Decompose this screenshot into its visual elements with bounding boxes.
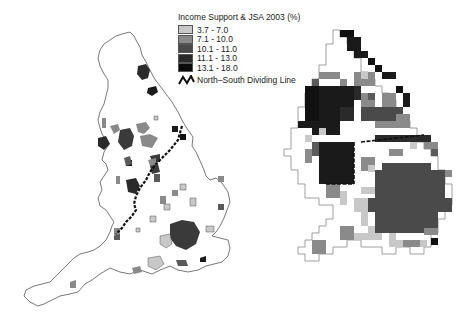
legend-row: 13.1 - 18.0 (178, 63, 300, 73)
zigzag-line-icon (178, 75, 195, 85)
cartogram-cells (298, 30, 452, 254)
legend-swatch (178, 35, 193, 44)
legend-label: 11.1 - 13.0 (197, 53, 237, 63)
legend-label: 10.1 - 11.0 (197, 44, 237, 54)
legend-swatch (178, 25, 193, 34)
legend-row: 3.7 - 7.0 (178, 25, 300, 35)
legend-label: 3.7 - 7.0 (197, 25, 228, 35)
right-cartogram (284, 30, 452, 261)
legend-swatch (178, 63, 193, 72)
legend-row: 10.1 - 11.0 (178, 44, 300, 54)
legend-label: 7.1 - 10.0 (197, 34, 233, 44)
legend-line-label: North–South Dividing Line (197, 75, 296, 85)
legend-swatch (178, 44, 193, 53)
legend-row: 7.1 - 10.0 (178, 35, 300, 45)
legend-row: 11.1 - 13.0 (178, 54, 300, 64)
legend-line-row: North–South Dividing Line (178, 75, 300, 85)
legend-swatch (178, 54, 193, 63)
map-legend: Income Support & JSA 2003 (%) 3.7 - 7.0 … (178, 12, 300, 85)
legend-label: 13.1 - 18.0 (197, 63, 238, 73)
legend-title: Income Support & JSA 2003 (%) (178, 12, 300, 22)
